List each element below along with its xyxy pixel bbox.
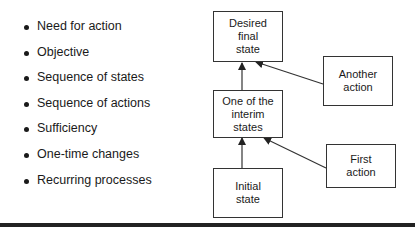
diagram-arrows	[0, 0, 415, 234]
first-action-box: First action	[326, 144, 396, 188]
desired-final-state-box: Desired final state	[213, 11, 283, 62]
arrow-another-action-to-desired	[256, 62, 323, 84]
initial-state-box: Initial state	[213, 168, 283, 218]
another-action-box: Another action	[323, 56, 393, 106]
bottom-rule	[0, 223, 415, 227]
arrow-first-action-to-interim	[264, 138, 326, 168]
interim-state-box: One of the interim states	[213, 90, 283, 138]
